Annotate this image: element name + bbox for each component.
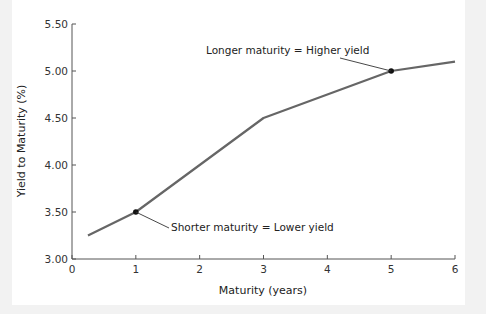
x-tick-label: 0 (69, 263, 76, 275)
y-tick-label: 3.50 (45, 206, 68, 218)
x-tick-label: 4 (324, 263, 331, 275)
series-line (88, 62, 455, 236)
y-tick-label: 5.50 (45, 18, 68, 30)
y-axis-title: Yield to Maturity (%) (15, 85, 28, 199)
y-tick-label: 4.00 (45, 159, 68, 171)
x-tick-label: 5 (388, 263, 395, 275)
yield-curve-chart: 3.003.504.004.505.005.50 0123456 Yield t… (0, 0, 486, 314)
annotation-label: Shorter maturity = Lower yield (171, 221, 334, 233)
annotation-leader-line (340, 58, 391, 71)
annotation-label: Longer maturity = Higher yield (206, 44, 369, 56)
x-tick-label: 1 (132, 263, 139, 275)
x-tick-label: 3 (260, 263, 267, 275)
data-point-marker (388, 68, 394, 74)
x-tick-label: 6 (452, 263, 459, 275)
x-axis-title: Maturity (years) (219, 284, 307, 297)
y-tick-label: 4.50 (45, 112, 68, 124)
y-tick-label: 3.00 (45, 253, 68, 265)
x-axis-ticks: 0123456 (69, 255, 459, 275)
yield-curve-line (88, 62, 455, 236)
annotation-leader-line (136, 212, 169, 228)
x-tick-label: 2 (196, 263, 203, 275)
annotations: Longer maturity = Higher yieldShorter ma… (136, 44, 391, 233)
y-tick-label: 5.00 (45, 65, 68, 77)
y-axis-ticks: 3.003.504.004.505.005.50 (45, 18, 76, 265)
